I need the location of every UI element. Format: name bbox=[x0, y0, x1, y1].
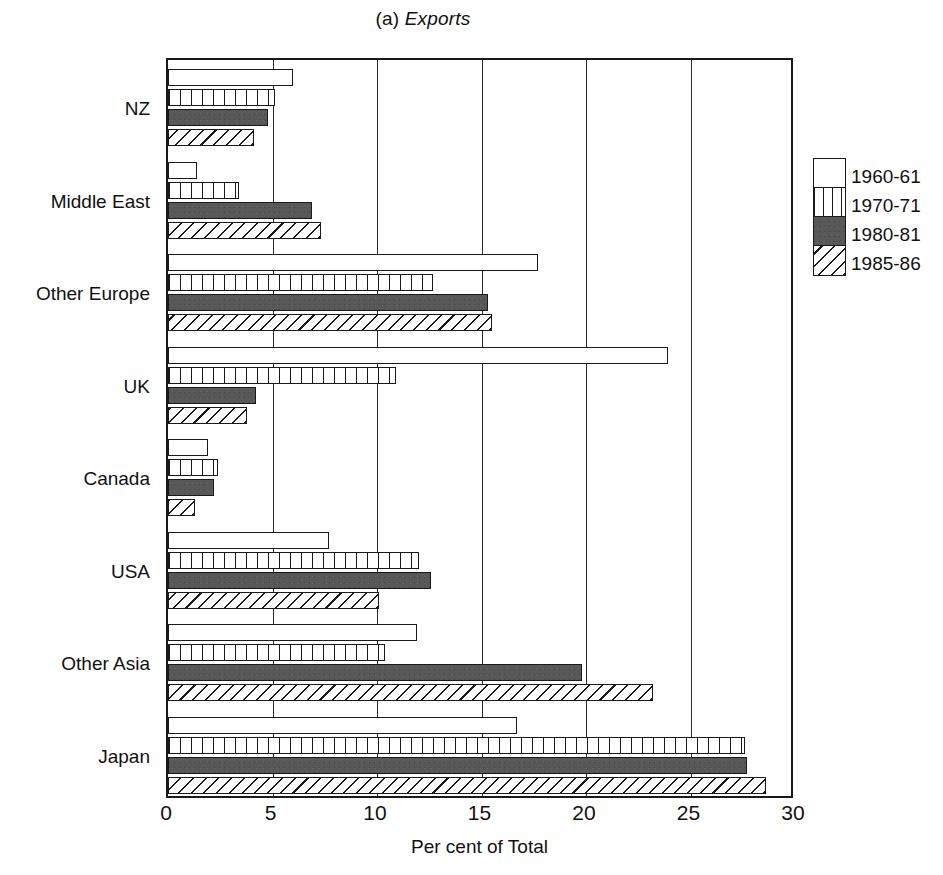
legend-label-1960-61: 1960-61 bbox=[851, 167, 921, 186]
bar-group bbox=[168, 68, 791, 153]
y-axis-category-labels: NZMiddle EastOther EuropeUKCanadaUSAOthe… bbox=[0, 58, 158, 798]
bar-group bbox=[168, 531, 791, 616]
bar-group bbox=[168, 716, 791, 801]
bar bbox=[168, 479, 214, 496]
bar bbox=[168, 274, 433, 291]
legend-label-1985-86: 1985-86 bbox=[851, 254, 921, 273]
bar-group bbox=[168, 161, 791, 246]
bar bbox=[168, 222, 321, 239]
bar bbox=[168, 407, 247, 424]
bar bbox=[168, 89, 275, 106]
bar bbox=[168, 717, 517, 734]
y-axis-label-middle-east: Middle East bbox=[51, 192, 150, 211]
bar bbox=[168, 294, 488, 311]
legend-swatch-1960-61 bbox=[814, 159, 845, 188]
x-tick-label-0: 0 bbox=[160, 802, 172, 823]
x-tick-label-10: 10 bbox=[363, 802, 386, 823]
x-tick-label-20: 20 bbox=[572, 802, 595, 823]
bar bbox=[168, 459, 218, 476]
plot-area bbox=[166, 58, 793, 798]
legend-swatch-stack bbox=[813, 158, 846, 276]
y-axis-label-other-europe: Other Europe bbox=[36, 284, 150, 303]
legend-swatch-1970-71 bbox=[814, 188, 845, 217]
legend-swatch-1980-81 bbox=[814, 217, 845, 246]
bar bbox=[168, 572, 431, 589]
y-axis-label-uk: UK bbox=[124, 377, 150, 396]
legend-swatch-1985-86 bbox=[814, 246, 845, 275]
x-tick-label-15: 15 bbox=[468, 802, 491, 823]
chart-title-emphasis: Exports bbox=[405, 8, 471, 29]
y-axis-label-other-asia: Other Asia bbox=[61, 654, 150, 673]
bar bbox=[168, 387, 256, 404]
legend-label-1980-81: 1980-81 bbox=[851, 225, 921, 244]
bar-group bbox=[168, 438, 791, 523]
bar bbox=[168, 624, 417, 641]
bar bbox=[168, 664, 582, 681]
bar bbox=[168, 254, 538, 271]
bar bbox=[168, 314, 492, 331]
bar bbox=[168, 552, 419, 569]
bar bbox=[168, 109, 268, 126]
bar bbox=[168, 777, 766, 794]
x-tick-label-25: 25 bbox=[677, 802, 700, 823]
bar bbox=[168, 202, 312, 219]
bar bbox=[168, 162, 197, 179]
x-axis-title: Per cent of Total bbox=[166, 836, 793, 858]
y-axis-label-japan: Japan bbox=[98, 747, 150, 766]
bar bbox=[168, 737, 745, 754]
bar-group bbox=[168, 346, 791, 431]
chart-title-prefix: (a) bbox=[375, 8, 404, 29]
x-tick-label-5: 5 bbox=[265, 802, 277, 823]
bar bbox=[168, 757, 747, 774]
x-tick-label-30: 30 bbox=[781, 802, 804, 823]
bar bbox=[168, 69, 293, 86]
bar bbox=[168, 129, 254, 146]
bar bbox=[168, 439, 208, 456]
bar bbox=[168, 592, 379, 609]
bar bbox=[168, 532, 329, 549]
x-axis-tick-labels: 051015202530 bbox=[166, 802, 793, 830]
bar bbox=[168, 644, 385, 661]
bar bbox=[168, 347, 668, 364]
y-axis-label-nz: NZ bbox=[125, 99, 150, 118]
bar bbox=[168, 367, 396, 384]
legend-label-1970-71: 1970-71 bbox=[851, 196, 921, 215]
bar-group bbox=[168, 623, 791, 708]
y-axis-label-canada: Canada bbox=[83, 469, 150, 488]
bar bbox=[168, 684, 653, 701]
bar bbox=[168, 499, 195, 516]
bars-layer bbox=[168, 60, 791, 796]
bar bbox=[168, 182, 239, 199]
chart-title: (a) Exports bbox=[0, 8, 846, 30]
bar-group bbox=[168, 253, 791, 338]
y-axis-label-usa: USA bbox=[111, 562, 150, 581]
